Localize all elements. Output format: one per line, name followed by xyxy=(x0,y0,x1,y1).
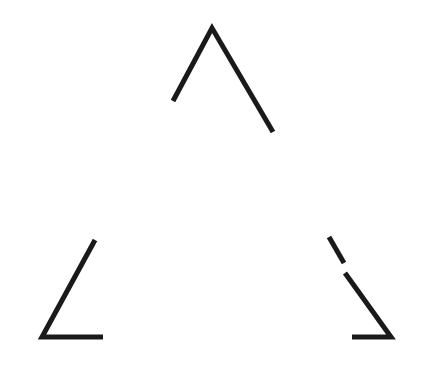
illusory-triangle-figure xyxy=(0,0,422,374)
figure-canvas xyxy=(0,0,422,374)
background-rect xyxy=(0,0,422,374)
